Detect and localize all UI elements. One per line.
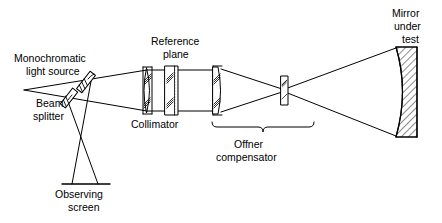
- label-reference-plane-line1: Reference: [151, 35, 200, 47]
- label-beam-splitter-line2: splitter: [33, 110, 64, 122]
- label-light-source-line1: Monochromatic: [14, 52, 86, 64]
- offner-compensator-brace: [212, 122, 314, 132]
- reference-plane: [165, 66, 178, 115]
- label-offner-line1: Offner: [234, 138, 263, 150]
- beam-focus-to-mirror: [285, 48, 396, 136]
- label-collimator: Collimator: [131, 118, 179, 130]
- label-reference-plane-line2: plane: [163, 48, 189, 60]
- label-offner-line2: compensator: [216, 151, 277, 163]
- offner-compensator-lens: [213, 66, 222, 115]
- label-light-source-line2: light source: [26, 65, 80, 77]
- label-mirror-line2: under: [394, 20, 421, 32]
- label-observing-screen-line1: Observing: [55, 188, 103, 200]
- collimated-beam: [147, 70, 216, 111]
- collimator-lens: [143, 67, 152, 114]
- mirror-under-test: [396, 47, 417, 137]
- label-mirror-line3: test: [402, 33, 419, 45]
- offner-field-lens: [281, 76, 288, 105]
- converging-beam-to-focus: [221, 69, 282, 112]
- label-mirror-line1: Mirror: [392, 7, 420, 19]
- label-beam-splitter-line1: Beam: [36, 97, 64, 109]
- label-observing-screen-line2: screen: [68, 201, 100, 213]
- optical-diagram: Monochromatic light source Beam splitter…: [0, 0, 442, 223]
